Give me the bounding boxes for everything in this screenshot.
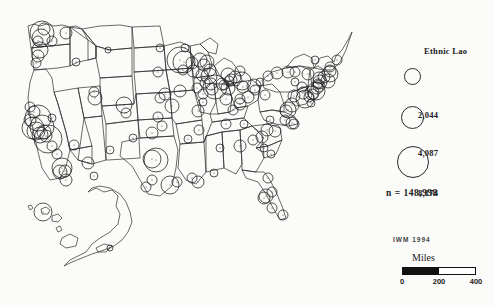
population-center-dot xyxy=(222,84,223,85)
population-center-dot xyxy=(158,117,159,118)
population-center-dot xyxy=(308,74,309,75)
population-center-dot xyxy=(214,173,215,174)
population-center-dot xyxy=(126,113,127,114)
population-center-dot xyxy=(46,136,47,137)
population-center-dot xyxy=(156,160,157,161)
population-center-dot xyxy=(303,93,304,94)
population-center-dot xyxy=(248,97,249,98)
population-center-dot xyxy=(267,130,268,131)
scale-tick-0: 0 xyxy=(400,277,404,286)
population-center-dot xyxy=(94,176,95,177)
population-center-dot xyxy=(277,73,278,74)
population-center-dot xyxy=(226,124,227,125)
population-center-dot xyxy=(319,78,320,79)
population-center-dot xyxy=(66,33,67,34)
population-center-dot xyxy=(160,48,161,49)
population-center-dot xyxy=(66,180,67,181)
population-center-dot xyxy=(95,98,96,99)
population-center-dot xyxy=(36,63,37,64)
population-center-dot xyxy=(302,87,303,88)
population-center-dot xyxy=(260,82,261,83)
population-center-dot xyxy=(240,99,241,100)
population-center-dot xyxy=(152,180,153,181)
population-center-dot xyxy=(324,77,325,78)
population-center-dot xyxy=(183,70,184,71)
population-center-dot xyxy=(197,88,198,89)
population-center-dot xyxy=(315,60,316,61)
population-center-dot xyxy=(110,248,111,249)
population-center-dot xyxy=(60,172,61,173)
population-center-dot xyxy=(255,90,256,91)
population-center-dot xyxy=(211,84,212,85)
population-center-dot xyxy=(193,71,194,72)
map-attribution: IWM 1994 xyxy=(393,236,431,243)
map-legend: Ethnic Lao 2,0444,0878,174 n = 148,998 xyxy=(380,40,494,220)
scale-bar-fill xyxy=(403,268,439,274)
population-center-dot xyxy=(265,95,266,96)
population-center-dot xyxy=(231,80,232,81)
population-center-dot xyxy=(240,146,241,147)
population-center-dot xyxy=(283,215,284,216)
population-center-dot xyxy=(268,178,269,179)
population-center-dot xyxy=(224,85,225,86)
population-center-dot xyxy=(158,72,159,73)
legend-circle-4087 xyxy=(401,106,424,129)
population-center-dot xyxy=(295,72,296,73)
scale-tick-200: 200 xyxy=(433,277,446,286)
population-center-dot xyxy=(172,106,173,107)
population-center-dot xyxy=(253,140,254,141)
population-center-dot xyxy=(235,77,236,78)
population-center-dot xyxy=(192,63,193,64)
legend-circle-2044 xyxy=(404,68,421,85)
legend-circle-8174 xyxy=(397,146,429,178)
population-center-dot xyxy=(74,145,75,146)
population-center-dot xyxy=(57,154,58,155)
population-center-dot xyxy=(133,138,134,139)
population-center-dot xyxy=(38,41,39,42)
population-center-dot xyxy=(240,71,241,72)
population-center-dot xyxy=(48,139,49,140)
population-center-dot xyxy=(198,111,199,112)
population-center-dot xyxy=(295,82,296,83)
population-center-dot xyxy=(288,72,289,73)
population-center-dot xyxy=(229,81,230,82)
population-center-dot xyxy=(52,146,53,147)
population-center-dot xyxy=(198,182,199,183)
population-center-dot xyxy=(294,96,295,97)
population-center-dot xyxy=(65,171,66,172)
population-center-dot xyxy=(270,120,271,121)
population-center-dot xyxy=(292,105,293,106)
population-center-dot xyxy=(330,67,331,68)
population-center-dot xyxy=(319,86,320,87)
population-center-dot xyxy=(285,120,286,121)
population-center-dot xyxy=(185,48,186,49)
population-center-dot xyxy=(294,124,295,125)
scale-units-label: Miles xyxy=(412,252,435,263)
population-center-dot xyxy=(33,128,34,129)
population-center-dot xyxy=(220,148,221,149)
population-center-dot xyxy=(272,208,273,209)
population-center-dot xyxy=(44,132,45,133)
state-boundaries-layer xyxy=(28,24,352,266)
population-center-dot xyxy=(184,62,185,63)
population-center-dot xyxy=(160,98,161,99)
population-center-dot xyxy=(271,154,272,155)
population-center-dot xyxy=(152,133,153,134)
population-center-dot xyxy=(254,86,255,87)
population-center-dot xyxy=(34,112,35,113)
population-center-dot xyxy=(215,87,216,88)
population-center-dot xyxy=(210,70,211,71)
population-center-dot xyxy=(52,41,53,42)
population-center-dot xyxy=(177,182,178,183)
population-center-dot xyxy=(36,131,37,132)
population-center-dot xyxy=(38,56,39,57)
population-center-dot xyxy=(170,185,171,186)
population-center-dot xyxy=(292,123,293,124)
population-center-dot xyxy=(152,159,153,160)
population-center-dot xyxy=(311,103,312,104)
population-center-dot xyxy=(42,33,43,34)
population-center-dot xyxy=(203,94,204,95)
population-center-dot xyxy=(203,102,204,103)
scale-tick-400: 400 xyxy=(470,277,483,286)
population-center-dot xyxy=(262,137,263,138)
